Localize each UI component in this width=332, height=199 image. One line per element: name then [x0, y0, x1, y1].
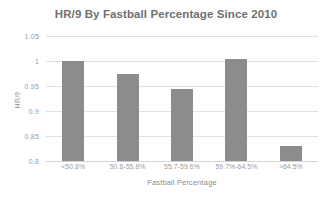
- bar: [62, 61, 84, 161]
- x-tick-label: <50.8%: [61, 163, 85, 170]
- bar: [117, 74, 139, 162]
- bars-layer: [46, 36, 318, 161]
- y-tick-label: 0.8: [29, 158, 39, 165]
- y-tick-label: 0.9: [29, 108, 39, 115]
- y-axis-tick-labels: 1.0510.950.90.850.8: [0, 36, 44, 161]
- bar: [225, 59, 247, 162]
- y-tick-label: 0.85: [25, 133, 39, 140]
- y-tick-label: 0.95: [25, 83, 39, 90]
- x-axis-title: Fastball Percentage: [46, 178, 318, 187]
- plot-area: [46, 36, 318, 161]
- y-tick-label: 1.05: [25, 33, 39, 40]
- x-axis-tick-labels: <50.8%50.8-55.6%55.7-59.6%59.7%-64.5%>64…: [46, 163, 318, 176]
- x-tick-label: >64.5%: [279, 163, 303, 170]
- bar: [171, 89, 193, 162]
- x-tick-label: 50.8-55.6%: [110, 163, 146, 170]
- bar: [280, 146, 302, 161]
- x-tick-label: 59.7%-64.5%: [215, 163, 257, 170]
- chart-title: HR/9 By Fastball Percentage Since 2010: [0, 8, 332, 20]
- chart-figure: HR/9 By Fastball Percentage Since 2010 H…: [0, 0, 332, 199]
- y-tick-label: 1: [35, 58, 39, 65]
- gridline: [46, 161, 318, 162]
- x-tick-label: 55.7-59.6%: [164, 163, 200, 170]
